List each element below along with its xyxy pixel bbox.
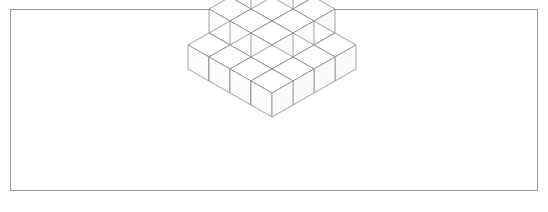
cube-stack-drawing [0, 0, 548, 212]
figure-canvas [0, 0, 548, 212]
cube-group [188, 0, 356, 117]
